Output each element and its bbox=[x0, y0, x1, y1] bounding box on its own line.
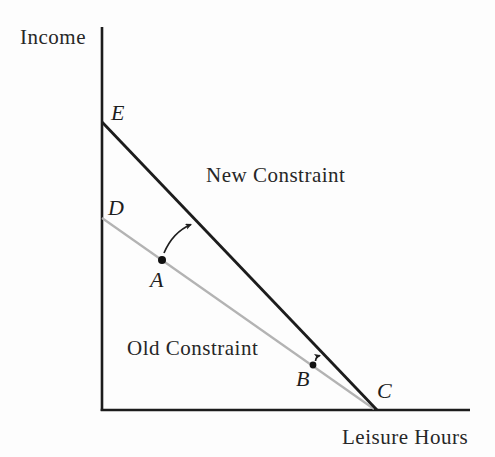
point-a-dot bbox=[158, 256, 166, 264]
point-b-dot bbox=[310, 362, 317, 369]
point-label-a: A bbox=[150, 267, 163, 293]
old-constraint-line bbox=[102, 218, 374, 409]
diagram-canvas bbox=[0, 0, 495, 457]
point-label-d: D bbox=[108, 195, 124, 221]
point-label-b: B bbox=[296, 366, 309, 392]
point-label-c: C bbox=[377, 378, 392, 404]
new-constraint-label: New Constraint bbox=[206, 163, 345, 188]
x-axis-label: Leisure Hours bbox=[342, 425, 468, 450]
y-axis-label: Income bbox=[20, 25, 86, 50]
shift-arrow-a-icon bbox=[164, 225, 191, 254]
point-label-e: E bbox=[111, 100, 124, 126]
budget-constraint-diagram: Income Leisure Hours New Constraint Old … bbox=[0, 0, 495, 457]
shift-arrow-b-icon bbox=[316, 356, 321, 362]
old-constraint-label: Old Constraint bbox=[127, 336, 258, 361]
